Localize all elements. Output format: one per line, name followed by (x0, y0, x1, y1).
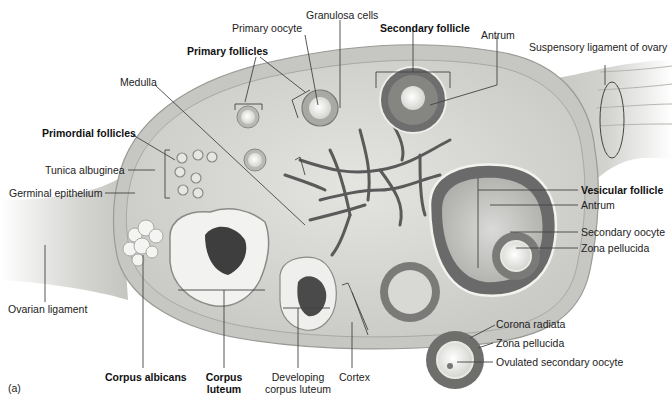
label-developing-line2: corpus luteum (258, 383, 338, 395)
ovary-illustration (0, 0, 672, 406)
ovulated-oocyte-shape (426, 331, 484, 389)
label-granulosa-cells: Granulosa cells (306, 9, 378, 21)
label-primary-follicles: Primary follicles (187, 45, 268, 57)
label-secondary-follicle: Secondary follicle (380, 22, 470, 34)
label-corpus-luteum: Corpus luteum (204, 371, 244, 395)
secondary-follicle-shape (380, 67, 446, 133)
label-primary-oocyte: Primary oocyte (232, 22, 302, 34)
label-medulla: Medulla (120, 76, 157, 88)
developing-corpus-luteum-shape (280, 257, 336, 330)
vesicular-follicle-shape (430, 165, 556, 296)
label-ovarian-ligament: Ovarian ligament (8, 303, 87, 315)
label-corpus-albicans: Corpus albicans (105, 371, 187, 383)
label-zona-pellucida-right: Zona pellucida (581, 242, 649, 254)
label-corpus-luteum-line1: Corpus (204, 371, 244, 383)
label-antrum-top: Antrum (481, 29, 515, 41)
label-vesicular-follicle: Vesicular follicle (581, 184, 663, 196)
label-cortex: Cortex (339, 371, 370, 383)
label-developing-corpus-luteum: Developing corpus luteum (258, 371, 338, 395)
label-corona-radiata: Corona radiata (496, 318, 565, 330)
label-primordial-follicles: Primordial follicles (42, 127, 136, 139)
label-germinal-epithelium: Germinal epithelium (9, 187, 102, 199)
label-zona-pellucida-ovulated: Zona pellucida (496, 337, 564, 349)
panel-label: (a) (8, 382, 21, 394)
label-suspensory-ligament: Suspensory ligament of ovary (529, 41, 667, 53)
label-tunica-albuginea: Tunica albuginea (45, 164, 125, 176)
label-secondary-oocyte: Secondary oocyte (581, 226, 665, 238)
rupturing-follicle-shape (380, 262, 440, 322)
ovary-diagram: Primary oocyte Granulosa cells Secondary… (0, 0, 672, 406)
label-developing-line1: Developing (258, 371, 338, 383)
label-antrum-right: Antrum (581, 199, 615, 211)
label-corpus-luteum-line2: luteum (204, 383, 244, 395)
label-ovulated-secondary-oocyte: Ovulated secondary oocyte (496, 356, 623, 368)
